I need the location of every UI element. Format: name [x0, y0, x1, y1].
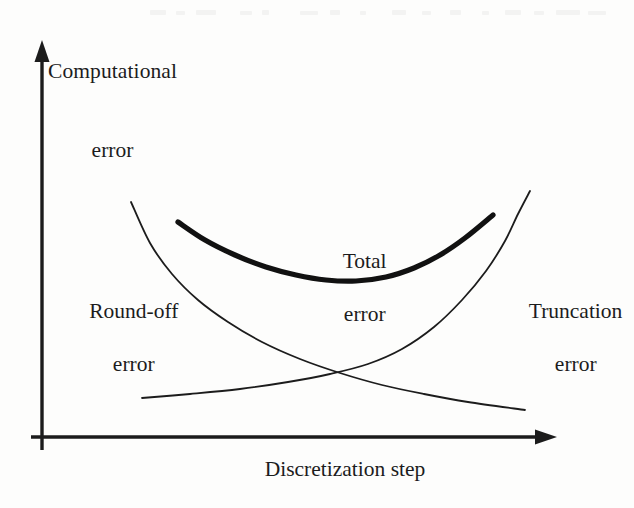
round-off-label-line1: Round-off — [89, 299, 178, 323]
x-axis-label: Discretization step — [205, 456, 485, 482]
curve-label-total-error: Total error — [296, 222, 412, 353]
arrow-right-icon — [535, 430, 557, 445]
truncation-label-line1: Truncation — [529, 299, 623, 323]
round-off-label-line2: error — [113, 352, 155, 376]
figure-root: Computational error Discretization step … — [0, 0, 634, 508]
y-axis-label: Computational error — [0, 6, 225, 216]
y-axis-label-line2: error — [0, 137, 225, 163]
total-label-line1: Total — [343, 249, 387, 273]
truncation-label-line2: error — [555, 352, 597, 376]
curve-label-round-off-error: Round-off error — [48, 272, 198, 403]
curve-label-truncation-error: Truncation error — [495, 272, 634, 403]
total-label-line2: error — [344, 302, 386, 326]
y-axis-label-line1: Computational — [0, 58, 225, 84]
